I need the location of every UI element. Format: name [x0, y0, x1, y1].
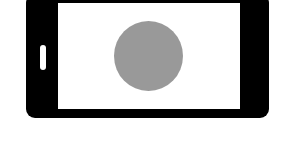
- home-button-icon: [40, 45, 46, 70]
- circle-shape: [114, 21, 183, 91]
- illustration-canvas: [0, 0, 287, 141]
